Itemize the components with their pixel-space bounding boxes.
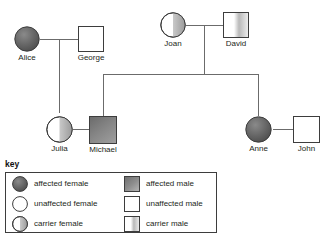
affected-male-square-icon	[124, 176, 140, 192]
carrier-female-circle-icon	[46, 116, 73, 143]
person-label-anne: Anne	[249, 144, 268, 154]
person-label-joan: Joan	[164, 39, 181, 49]
key-item-affected-female: affected female	[12, 174, 120, 194]
affected-female-circle-icon	[14, 26, 40, 52]
person-alice[interactable]: Alice	[14, 26, 40, 52]
carrier-male-square-icon	[223, 12, 249, 38]
carrier-female-circle-icon	[160, 12, 186, 38]
partnership-line-anne-john	[273, 129, 293, 130]
key-column-female: affected female unaffected female	[12, 173, 120, 232]
person-george[interactable]: George	[78, 26, 104, 52]
key-label-unaffected-male: unaffected male	[146, 199, 203, 209]
key-label-carrier-male: carrier male	[146, 219, 188, 229]
person-label-alice: Alice	[18, 53, 35, 63]
unaffected-female-circle-icon	[12, 196, 28, 212]
sibship-drop-anne	[258, 74, 259, 116]
carrier-female-circle-icon	[12, 216, 28, 232]
key-item-carrier-male: carrier male	[124, 214, 220, 234]
key-legend-box: affected female unaffected female	[5, 172, 217, 233]
key-item-unaffected-female: unaffected female	[12, 194, 120, 214]
unaffected-male-square-icon	[293, 116, 320, 143]
person-label-julia: Julia	[51, 144, 67, 154]
key-item-unaffected-male: unaffected male	[124, 194, 220, 214]
key-item-carrier-female: carrier female	[12, 214, 120, 234]
affected-male-square-icon	[89, 116, 117, 144]
key-label-unaffected-female: unaffected female	[34, 199, 97, 209]
descent-stem-joan-david	[204, 25, 205, 74]
key-label-affected-female: affected female	[34, 179, 89, 189]
person-julia[interactable]: Julia	[46, 116, 73, 143]
person-joan[interactable]: Joan	[160, 12, 186, 38]
person-david[interactable]: David	[223, 12, 249, 38]
key-title: key	[5, 159, 19, 169]
person-michael[interactable]: Michael	[89, 116, 117, 144]
key-item-affected-male: affected male	[124, 174, 220, 194]
affected-female-circle-icon	[12, 176, 28, 192]
person-label-george: George	[78, 53, 105, 63]
person-label-michael: Michael	[89, 145, 117, 155]
pedigree-chart: Alice George Joan David	[0, 0, 328, 239]
sibship-drop-michael	[103, 74, 104, 116]
sibship-bar	[103, 74, 259, 75]
person-label-david: David	[226, 39, 246, 49]
unaffected-male-square-icon	[78, 26, 104, 52]
carrier-male-square-icon	[124, 216, 140, 232]
unaffected-male-square-icon	[124, 196, 140, 212]
descent-line-alice-george	[59, 39, 60, 113]
person-john[interactable]: John	[293, 116, 320, 143]
affected-female-circle-icon	[245, 116, 272, 143]
person-label-john: John	[298, 144, 315, 154]
partnership-line-julia-michael	[73, 129, 89, 130]
key-label-carrier-female: carrier female	[34, 219, 83, 229]
key-label-affected-male: affected male	[146, 179, 194, 189]
key-column-male: affected male unaffected male carrier ma…	[124, 173, 220, 232]
person-anne[interactable]: Anne	[245, 116, 272, 143]
